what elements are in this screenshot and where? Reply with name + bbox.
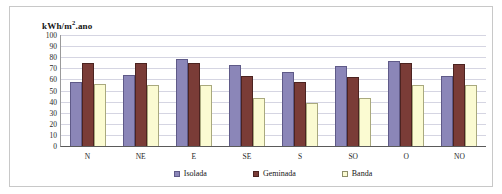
bar-group: E [167, 35, 220, 146]
bar-banda-n [94, 84, 106, 146]
bar-banda-o [412, 85, 424, 146]
x-axis-tick-label: S [298, 152, 302, 161]
bar-banda-s [306, 103, 318, 146]
y-axis-tick-label: 10 [50, 130, 58, 139]
chart-frame: kWh/m2.ano 1009080706050403020100 NNEESE… [9, 6, 493, 187]
y-axis-tick-label: 30 [50, 108, 58, 117]
y-axis-tick-label: 100 [46, 31, 57, 40]
bar-group: SE [220, 35, 273, 146]
y-axis-tick-label: 0 [53, 142, 57, 151]
bar-geminada-e [188, 63, 200, 146]
bar-group: NO [433, 35, 486, 146]
bar-isolada-ne [123, 75, 135, 146]
legend-label: Banda [352, 169, 372, 178]
bar-isolada-no [441, 76, 453, 146]
bar-isolada-o [388, 61, 400, 146]
bar-geminada-se [241, 76, 253, 146]
x-axis-tick-label: O [404, 152, 409, 161]
legend-label: Isolada [184, 169, 207, 178]
bar-groups: NNEESESSOONO [61, 35, 486, 146]
legend-item-isolada: Isolada [174, 169, 207, 178]
y-axis-tick-label: 50 [50, 86, 58, 95]
bar-group: SO [327, 35, 380, 146]
bar-geminada-so [347, 77, 359, 146]
y-axis-tick-label: 20 [50, 119, 58, 128]
bar-group: N [61, 35, 114, 146]
y-axis-tick-label: 60 [50, 75, 58, 84]
bar-isolada-se [229, 65, 241, 146]
bar-banda-so [359, 98, 371, 146]
y-axis-tick-label: 80 [50, 53, 58, 62]
bar-banda-no [465, 85, 477, 146]
chart-title-prefix: kWh/m [42, 21, 72, 31]
legend-label: Geminada [263, 169, 296, 178]
bar-group: O [380, 35, 433, 146]
bar-geminada-o [400, 63, 412, 146]
chart-legend: IsoladaGeminadaBanda [60, 169, 486, 178]
chart-title-suffix: .ano [75, 21, 92, 31]
bar-banda-se [253, 98, 265, 146]
legend-swatch-icon [174, 171, 180, 177]
legend-swatch-icon [342, 171, 348, 177]
bar-geminada-no [453, 64, 465, 146]
x-axis-tick-label: N [85, 152, 90, 161]
x-axis-tick-label: NE [136, 152, 146, 161]
bar-geminada-s [294, 82, 306, 146]
x-axis-tick-label: SE [243, 152, 252, 161]
y-axis-tick-label: 90 [50, 42, 58, 51]
bar-group: S [274, 35, 327, 146]
bar-isolada-s [282, 72, 294, 146]
x-axis-tick-label: SO [348, 152, 358, 161]
chart-title: kWh/m2.ano [42, 19, 93, 31]
legend-item-geminada: Geminada [253, 169, 296, 178]
bar-geminada-ne [135, 63, 147, 146]
legend-item-banda: Banda [342, 169, 372, 178]
bar-isolada-e [176, 59, 188, 146]
bar-banda-ne [147, 85, 159, 146]
x-axis-tick-label: E [192, 152, 197, 161]
bar-banda-e [200, 85, 212, 146]
bar-isolada-n [70, 82, 82, 146]
bar-isolada-so [335, 66, 347, 146]
bar-geminada-n [82, 63, 94, 146]
plot-area: 1009080706050403020100 NNEESESSOONO [60, 35, 486, 147]
chart-figure: kWh/m2.ano 1009080706050403020100 NNEESE… [0, 0, 502, 194]
bar-group: NE [114, 35, 167, 146]
y-axis-tick-label: 70 [50, 64, 58, 73]
y-axis-tick-label: 40 [50, 97, 58, 106]
x-axis-tick-label: NO [454, 152, 465, 161]
legend-swatch-icon [253, 171, 259, 177]
